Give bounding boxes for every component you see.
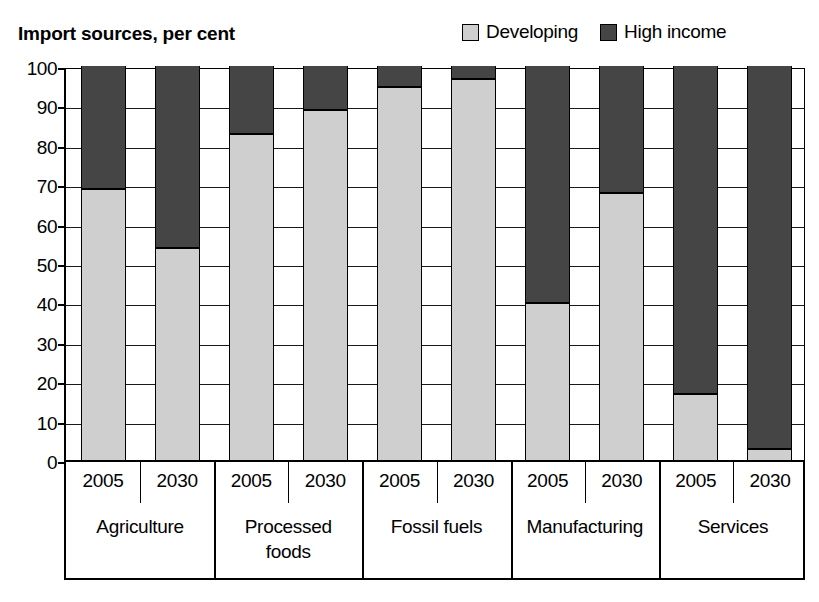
bar-segment-developing[interactable] bbox=[304, 109, 347, 460]
stacked-bar[interactable] bbox=[525, 66, 570, 460]
y-axis-tick-mark bbox=[58, 226, 66, 228]
bar-segment-high-income[interactable] bbox=[600, 66, 643, 192]
y-axis-tick-label: 10 bbox=[37, 413, 57, 435]
x-axis-year-label: 2030 bbox=[585, 470, 659, 492]
chart-plot-area: 1009080706050403020100 20052030Agricultu… bbox=[0, 0, 819, 602]
x-axis-year-label: 2005 bbox=[511, 470, 585, 492]
bar-segment-developing[interactable] bbox=[526, 302, 569, 460]
bar-segment-developing[interactable] bbox=[378, 86, 421, 460]
stacked-bar[interactable] bbox=[673, 66, 718, 460]
bar-segment-developing[interactable] bbox=[748, 448, 791, 460]
stacked-bar[interactable] bbox=[303, 66, 348, 460]
y-axis-tick-mark bbox=[58, 265, 66, 267]
bar-segment-developing[interactable] bbox=[82, 188, 125, 460]
y-axis-tick-label: 80 bbox=[37, 137, 57, 159]
bar-segment-high-income[interactable] bbox=[378, 66, 421, 86]
bar-segment-high-income[interactable] bbox=[452, 66, 495, 78]
x-axis-year-label: 2030 bbox=[437, 470, 511, 492]
bar-segment-high-income[interactable] bbox=[748, 66, 791, 448]
y-axis-tick-label: 100 bbox=[27, 58, 57, 80]
stacked-bar[interactable] bbox=[229, 66, 274, 460]
y-axis-tick-mark bbox=[58, 68, 66, 70]
y-axis-tick-label: 0 bbox=[47, 452, 57, 474]
y-axis-tick-mark bbox=[58, 344, 66, 346]
stacked-bar[interactable] bbox=[451, 66, 496, 460]
x-axis-year-label: 2005 bbox=[66, 470, 140, 492]
stacked-bar[interactable] bbox=[747, 66, 792, 460]
x-axis-group-label: Services bbox=[659, 514, 807, 539]
plot-frame: 1009080706050403020100 bbox=[64, 68, 805, 462]
x-axis-label-band: 20052030Agriculture20052030Processedfood… bbox=[64, 462, 805, 580]
x-axis-group-label: Fossil fuels bbox=[362, 514, 510, 539]
stacked-bar[interactable] bbox=[155, 66, 200, 460]
y-axis-tick-label: 50 bbox=[37, 255, 57, 277]
x-axis-year-label: 2030 bbox=[733, 470, 807, 492]
x-axis-year-label: 2005 bbox=[659, 470, 733, 492]
x-axis-year-label: 2005 bbox=[214, 470, 288, 492]
bar-segment-developing[interactable] bbox=[674, 393, 717, 460]
y-axis-tick-label: 90 bbox=[37, 97, 57, 119]
x-axis-year-label: 2005 bbox=[362, 470, 436, 492]
y-axis-tick-mark bbox=[58, 304, 66, 306]
bar-segment-high-income[interactable] bbox=[156, 66, 199, 247]
x-axis-group-label: Manufacturing bbox=[511, 514, 659, 539]
y-axis-tick-label: 40 bbox=[37, 294, 57, 316]
y-axis-tick-label: 20 bbox=[37, 373, 57, 395]
bar-segment-developing[interactable] bbox=[452, 78, 495, 460]
x-axis-group-label: Processedfoods bbox=[214, 514, 362, 564]
bar-segment-developing[interactable] bbox=[600, 192, 643, 460]
y-axis-tick-label: 70 bbox=[37, 176, 57, 198]
y-axis-tick-label: 60 bbox=[37, 216, 57, 238]
y-axis-tick-mark bbox=[58, 107, 66, 109]
y-axis-tick-mark bbox=[58, 147, 66, 149]
bar-segment-high-income[interactable] bbox=[230, 66, 273, 133]
bar-segment-high-income[interactable] bbox=[674, 66, 717, 393]
y-axis-tick-label: 30 bbox=[37, 334, 57, 356]
y-axis-tick-mark bbox=[58, 383, 66, 385]
x-axis-year-label: 2030 bbox=[288, 470, 362, 492]
x-axis-year-label: 2030 bbox=[140, 470, 214, 492]
y-axis-tick-mark bbox=[58, 423, 66, 425]
bar-segment-high-income[interactable] bbox=[526, 66, 569, 302]
stacked-bar[interactable] bbox=[81, 66, 126, 460]
y-axis-tick-mark bbox=[58, 186, 66, 188]
bar-segment-developing[interactable] bbox=[156, 247, 199, 460]
stacked-bar[interactable] bbox=[599, 66, 644, 460]
bar-segment-high-income[interactable] bbox=[82, 66, 125, 188]
x-axis-group-label: Agriculture bbox=[66, 514, 214, 539]
stacked-bar[interactable] bbox=[377, 66, 422, 460]
bar-segment-developing[interactable] bbox=[230, 133, 273, 460]
bar-segment-high-income[interactable] bbox=[304, 66, 347, 109]
